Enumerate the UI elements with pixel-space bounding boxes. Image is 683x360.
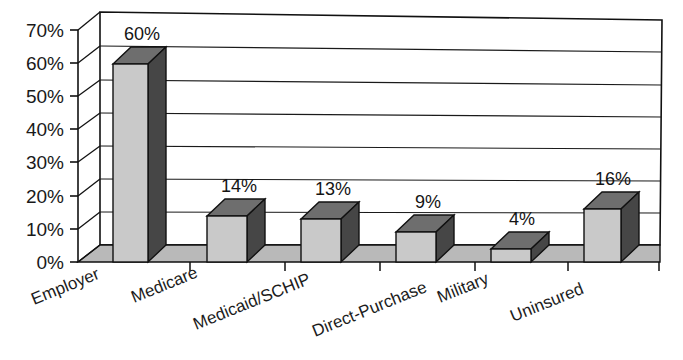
bar-chart-3d: 70% 60% 50% 40% 30% 20% 10% 0% [0, 0, 683, 360]
depth-connector-30 [78, 146, 100, 162]
cat-label-direct-purchase: Direct-Purchase [309, 277, 429, 340]
cat-label-military: Military [434, 269, 491, 307]
gridline-10 [100, 212, 660, 213]
gridline-50 [100, 80, 661, 85]
cat-label-medicaid-schip: Medicaid/SCHIP [190, 269, 313, 333]
data-label-employer: 60% [124, 24, 160, 44]
bar-front-face [491, 249, 531, 262]
data-label-uninsured: 16% [595, 169, 631, 189]
cat-label-uninsured: Uninsured [507, 279, 586, 326]
data-label-direct-purchase: 9% [415, 192, 441, 212]
depth-connector-70 [78, 12, 100, 30]
bar-front-face [301, 219, 341, 262]
bar-employer[interactable] [113, 47, 166, 262]
y-tick-label-70: 70% [26, 20, 64, 41]
bar-uninsured[interactable] [584, 192, 639, 262]
y-tick-label-50: 50% [26, 86, 64, 107]
y-tick-label-0: 0% [37, 252, 65, 273]
data-label-military: 4% [509, 209, 535, 229]
gridline-group [100, 46, 662, 245]
y-tick-label-60: 60% [26, 53, 64, 74]
bar-front-face [113, 64, 148, 262]
y-axis [70, 12, 100, 262]
bar-front-face [396, 232, 436, 262]
depth-connector-60 [78, 46, 100, 63]
depth-connector-20 [78, 179, 100, 196]
depth-connector-10 [78, 212, 100, 229]
cat-label-medicare: Medicare [128, 263, 200, 307]
y-tick-label-group: 70% 60% 50% 40% 30% 20% 10% 0% [26, 20, 64, 273]
bar-front-face [584, 209, 621, 262]
plot-floor [78, 245, 660, 262]
bar-side-face [148, 47, 166, 262]
y-tick-label-40: 40% [26, 119, 64, 140]
y-tick-label-30: 30% [26, 152, 64, 173]
data-label-medicare: 14% [221, 176, 257, 196]
floor-panel [78, 245, 660, 262]
gridline-30 [100, 146, 661, 149]
bar-front-face [207, 216, 247, 262]
y-tick-label-10: 10% [26, 219, 64, 240]
data-label-medicaid-schip: 13% [315, 179, 351, 199]
data-label-group: 60% 14% 13% 9% 4% 16% [124, 24, 631, 229]
x-axis-ticks [190, 262, 659, 271]
bar-medicare[interactable] [207, 199, 265, 262]
bar-medicaid-schip[interactable] [301, 202, 359, 262]
depth-connector-40 [78, 113, 100, 129]
chart-container: 70% 60% 50% 40% 30% 20% 10% 0% [0, 0, 683, 360]
gridline-60 [100, 46, 662, 52]
x-axis-label-group: Employer Medicare Medicaid/SCHIP Direct-… [28, 263, 586, 341]
y-tick-label-20: 20% [26, 186, 64, 207]
gridline-40 [100, 113, 661, 117]
gridline-20 [100, 179, 660, 181]
depth-connector-50 [78, 80, 100, 96]
